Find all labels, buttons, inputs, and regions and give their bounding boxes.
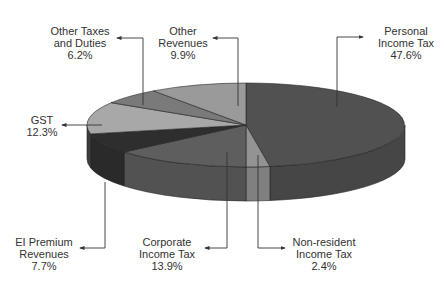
label-other-taxes-and-duties: Other Taxes and Duties 6.2% — [44, 25, 116, 61]
label-ei-premium-revenues: EI Premium Revenues 7.7% — [12, 236, 76, 272]
label-non-resident-income-tax: Non-resident Income Tax 2.4% — [288, 236, 360, 272]
label-corporate-income-tax: Corporate Income Tax 13.9% — [133, 236, 201, 272]
label-gst: GST 12.3% — [22, 114, 62, 138]
label-other-revenues: Other Revenues 9.9% — [155, 25, 211, 61]
label-personal-income-tax: Personal Income Tax 47.6% — [366, 25, 445, 61]
leader-ei — [80, 182, 105, 248]
pie-top — [87, 83, 404, 167]
